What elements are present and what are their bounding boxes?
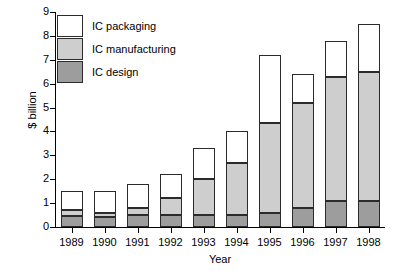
y-tick-label: 1: [31, 197, 49, 208]
y-tick-label: 7: [31, 54, 49, 65]
bar-segment: [127, 208, 149, 215]
bar-segment: [160, 198, 182, 215]
bar-segment: [325, 77, 347, 201]
bar-segment: [259, 123, 281, 213]
x-tick-mark: [237, 228, 238, 233]
x-tick-mark: [138, 228, 139, 233]
y-tick-label: 3: [31, 149, 49, 160]
bar-segment: [325, 201, 347, 227]
bar-segment: [127, 215, 149, 227]
bar-segment: [61, 216, 83, 227]
legend-swatch: [57, 38, 83, 60]
bar-group: [226, 12, 248, 227]
x-tick-mark: [72, 228, 73, 233]
stacked-bar-chart: $ billion 0123456789 1989199019911992199…: [0, 0, 400, 272]
x-tick-mark: [105, 228, 106, 233]
x-tick-mark: [303, 228, 304, 233]
bar-group: [193, 12, 215, 227]
bar-group: [325, 12, 347, 227]
x-tick-mark: [204, 228, 205, 233]
y-tick-label: 9: [31, 6, 49, 17]
bar-segment: [193, 215, 215, 227]
y-tick-label: 4: [31, 125, 49, 136]
legend-label: IC manufacturing: [92, 43, 176, 55]
bar-segment: [259, 213, 281, 227]
bar-segment: [127, 184, 149, 208]
legend-item: IC manufacturing: [57, 37, 176, 60]
x-tick-mark: [336, 228, 337, 233]
x-tick-mark: [270, 228, 271, 233]
bar-segment: [160, 215, 182, 227]
bar-segment: [259, 55, 281, 123]
x-tick-mark: [171, 228, 172, 233]
y-tick-label: 2: [31, 173, 49, 184]
legend-label: IC design: [92, 66, 138, 78]
bar-segment: [226, 131, 248, 162]
bar-group: [259, 12, 281, 227]
legend-item: IC design: [57, 60, 138, 83]
bar-segment: [226, 163, 248, 216]
bar-segment: [61, 210, 83, 216]
y-tick-label: 8: [31, 30, 49, 41]
bar-segment: [193, 179, 215, 215]
bar-segment: [94, 191, 116, 213]
bar-segment: [193, 148, 215, 179]
bar-segment: [160, 174, 182, 198]
y-tick-label: 5: [31, 102, 49, 113]
bar-group: [358, 12, 380, 227]
bar-segment: [94, 213, 116, 218]
bar-segment: [358, 72, 380, 201]
bar-segment: [292, 103, 314, 208]
y-tick-mark: [50, 227, 56, 228]
legend-swatch: [57, 15, 83, 37]
bar-segment: [292, 208, 314, 227]
x-tick-label: 1998: [349, 236, 389, 248]
y-tick-label: 0: [31, 221, 49, 232]
bar-segment: [358, 201, 380, 227]
bar-segment: [292, 74, 314, 103]
legend-item: IC packaging: [57, 14, 156, 37]
bar-segment: [226, 215, 248, 227]
bar-segment: [325, 41, 347, 77]
bar-group: [292, 12, 314, 227]
y-tick-label: 6: [31, 78, 49, 89]
x-axis-title: Year: [55, 253, 385, 265]
legend-label: IC packaging: [92, 20, 156, 32]
bar-segment: [61, 191, 83, 210]
x-tick-mark: [369, 228, 370, 233]
legend-swatch: [57, 61, 83, 83]
bar-segment: [94, 217, 116, 227]
bar-segment: [358, 24, 380, 72]
